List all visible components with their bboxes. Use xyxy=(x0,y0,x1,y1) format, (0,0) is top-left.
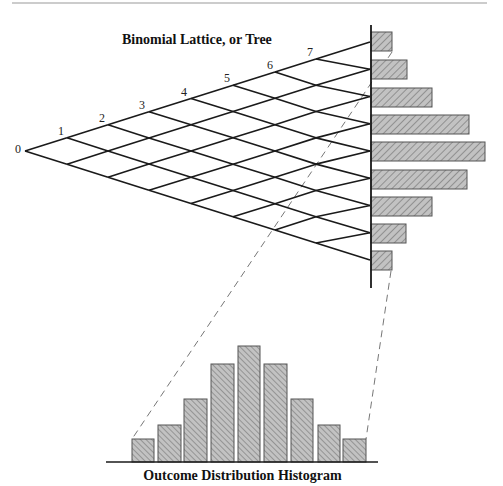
lattice-edge xyxy=(275,72,316,85)
lattice-edge xyxy=(191,138,233,151)
lattice-edge xyxy=(316,178,370,190)
histogram-bar xyxy=(291,399,313,462)
lattice-edge xyxy=(275,177,316,190)
dashed-link xyxy=(366,271,391,439)
lattice-edge xyxy=(316,233,370,243)
lattice-edge xyxy=(67,164,108,177)
lattice-edge xyxy=(191,99,233,112)
lattice-edge xyxy=(191,177,233,190)
side-histogram xyxy=(371,25,485,288)
lattice-edge xyxy=(108,151,149,164)
lattice-edge xyxy=(108,164,149,177)
lattice-edge xyxy=(316,85,370,96)
side-bar xyxy=(371,224,406,243)
lattice-edge xyxy=(275,125,316,138)
lattice-edge xyxy=(108,177,149,190)
lattice-edge xyxy=(233,112,275,125)
histogram-bar xyxy=(184,399,207,462)
lattice-edge xyxy=(149,138,191,151)
lattice-edge xyxy=(275,204,316,217)
lattice-edge xyxy=(67,138,108,151)
histogram-bar xyxy=(132,439,154,462)
lattice-edge xyxy=(316,206,370,217)
lattice-edge xyxy=(316,138,370,151)
histogram-bar xyxy=(318,425,340,462)
histogram-bar xyxy=(158,425,181,462)
lattice-edge xyxy=(233,138,275,151)
step-label-4: 4 xyxy=(181,85,187,100)
step-label-6: 6 xyxy=(267,58,273,73)
lattice-title: Binomial Lattice, or Tree xyxy=(122,32,272,48)
lattice-edge xyxy=(233,164,275,177)
lattice-edge xyxy=(191,190,233,203)
side-bar xyxy=(371,251,392,270)
histogram-bar xyxy=(238,346,260,462)
lattice-edge xyxy=(233,190,275,203)
lattice-edge xyxy=(275,190,316,203)
lattice-edge xyxy=(149,112,191,125)
step-label-3: 3 xyxy=(139,98,145,113)
lattice-edge xyxy=(275,59,316,72)
lattice-edge xyxy=(25,138,67,151)
step-label-0: 0 xyxy=(15,142,21,157)
diagram-canvas xyxy=(0,0,503,486)
lattice-edge xyxy=(275,217,316,230)
lattice-edge xyxy=(316,190,370,205)
lattice-edge xyxy=(233,217,275,230)
lattice-edge xyxy=(149,177,191,190)
lattice-edge xyxy=(275,164,316,177)
lattice-edge xyxy=(108,112,149,125)
lattice-edge xyxy=(191,164,233,177)
lattice-edge xyxy=(316,217,370,233)
histogram-bar xyxy=(343,439,366,462)
lattice-edge xyxy=(233,98,275,111)
histogram-title: Outcome Distribution Histogram xyxy=(0,468,485,484)
side-bar xyxy=(371,88,432,107)
lattice-edge xyxy=(149,99,191,112)
lattice-edge xyxy=(316,42,370,59)
outcome-histogram xyxy=(106,346,378,462)
lattice-edge xyxy=(108,138,149,151)
side-bar xyxy=(371,142,485,161)
lattice-edge xyxy=(149,125,191,138)
lattice-edge xyxy=(316,243,370,260)
lattice-edge xyxy=(191,85,233,98)
histogram-bar xyxy=(211,364,234,462)
lattice-edge xyxy=(316,69,370,85)
lattice-edge xyxy=(233,177,275,190)
side-bar xyxy=(371,115,469,134)
lattice-edge xyxy=(149,164,191,177)
projection-dashed-lines xyxy=(132,52,392,439)
lattice-edge xyxy=(25,151,67,164)
lattice-edge xyxy=(233,72,275,85)
lattice-edge xyxy=(233,125,275,138)
step-label-7: 7 xyxy=(307,45,313,60)
step-label-5: 5 xyxy=(224,71,230,86)
lattice-edge xyxy=(149,190,191,203)
lattice-edge xyxy=(233,151,275,164)
side-bar xyxy=(371,197,432,216)
side-bar xyxy=(371,32,392,51)
side-bar xyxy=(371,60,407,79)
lattice-edge xyxy=(316,112,370,124)
lattice-edge xyxy=(108,125,149,138)
lattice-edge xyxy=(233,85,275,98)
histogram-bar xyxy=(264,364,287,462)
step-label-1: 1 xyxy=(58,124,64,139)
lattice-edge xyxy=(191,112,233,125)
lattice-edge xyxy=(316,96,370,111)
lattice-edge xyxy=(191,151,233,164)
lattice-edge xyxy=(275,85,316,98)
side-bar xyxy=(371,170,467,189)
lattice-edge xyxy=(275,151,316,164)
lattice-edge xyxy=(316,124,370,138)
step-label-2: 2 xyxy=(99,111,105,126)
lattice-edge xyxy=(316,59,370,69)
lattice-edge xyxy=(233,204,275,217)
lattice-edge xyxy=(149,151,191,164)
dashed-link xyxy=(132,52,392,439)
lattice-edge xyxy=(67,151,108,164)
lattice-edge xyxy=(275,138,316,151)
lattice-edge xyxy=(316,164,370,178)
binomial-lattice xyxy=(25,42,370,260)
